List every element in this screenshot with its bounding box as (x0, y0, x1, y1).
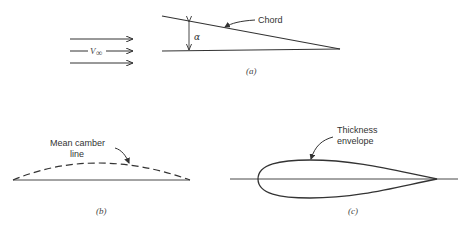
freestream-subscript: ∞ (96, 48, 102, 58)
thickness-label-line2: envelope (337, 136, 374, 146)
camber-pointer-arrow (115, 148, 129, 163)
caption-a: (a) (246, 66, 257, 76)
thickness-pointer-arrow (311, 137, 333, 159)
caption-b: (b) (96, 206, 107, 216)
alpha-label: α (194, 32, 200, 42)
airfoil-geometry-diagram: V ∞ α Chord (a) Mean camber line (b) Thi… (0, 0, 473, 225)
thickness-label-line1: Thickness (337, 125, 378, 135)
chord-pointer-arrow (225, 20, 255, 27)
camber-label-line1: Mean camber (50, 138, 105, 148)
mean-camber-line (13, 163, 190, 180)
caption-c: (c) (348, 206, 358, 216)
camber-label-line2: line (70, 149, 84, 159)
chord-label: Chord (258, 15, 283, 25)
